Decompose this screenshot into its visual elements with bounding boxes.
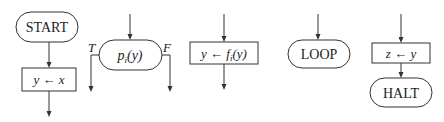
group-start-assign: START y ← x xyxy=(16,12,78,117)
flowchart-canvas: START y ← x pi(y) T F y ← fi(y) LOOP xyxy=(0,0,444,122)
decision-pi-label: pi(y) xyxy=(116,48,142,65)
loop-label: LOOP xyxy=(301,47,338,62)
arrowhead-icon xyxy=(47,111,52,117)
start-label: START xyxy=(26,20,69,35)
assign-y-f-label: y ← fi(y) xyxy=(199,46,247,63)
group-decision: pi(y) T F xyxy=(88,14,173,92)
true-branch-line xyxy=(91,55,99,88)
arrowhead-icon xyxy=(399,72,404,78)
group-assign-f: y ← fi(y) xyxy=(190,14,258,90)
arrowhead-icon xyxy=(316,34,321,40)
arrowhead-icon xyxy=(168,86,173,92)
arrowhead-icon xyxy=(222,36,227,42)
arrowhead-icon xyxy=(89,86,94,92)
group-loop: LOOP xyxy=(288,14,350,68)
assign-y-x-label: y ← x xyxy=(31,72,64,87)
true-label: T xyxy=(88,40,96,55)
arrowhead-icon xyxy=(399,37,404,43)
false-label: F xyxy=(162,40,172,55)
arrowhead-icon xyxy=(222,84,227,90)
false-branch-line xyxy=(162,55,170,88)
group-halt: z ← y HALT xyxy=(370,14,432,107)
arrowhead-icon xyxy=(47,62,52,68)
halt-label: HALT xyxy=(383,86,419,101)
arrowhead-icon xyxy=(128,34,133,40)
assign-z-y-label: z ← y xyxy=(385,46,417,61)
